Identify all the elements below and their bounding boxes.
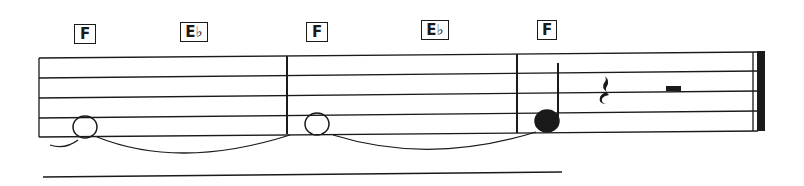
lyric-extender-line bbox=[43, 172, 562, 177]
half-rest-icon bbox=[666, 86, 681, 91]
staff-lines bbox=[39, 52, 758, 137]
whole-note-2 bbox=[305, 113, 329, 135]
quarter-rest-icon bbox=[600, 76, 609, 104]
music-score: F E♭ F E♭ F bbox=[0, 0, 804, 186]
chord-symbol-5: F bbox=[537, 20, 557, 40]
tie-1 bbox=[97, 135, 290, 153]
final-thick-barline bbox=[757, 51, 765, 131]
whole-note-1 bbox=[73, 116, 97, 138]
chord-symbol-3: F bbox=[306, 22, 328, 42]
quarter-note-head bbox=[535, 110, 559, 132]
incoming-tie bbox=[50, 140, 78, 147]
chord-symbol-1: F bbox=[74, 24, 96, 44]
staff-notation bbox=[0, 0, 804, 186]
rests bbox=[600, 76, 681, 104]
chord-symbol-2: E♭ bbox=[180, 22, 208, 42]
chord-symbol-4: E♭ bbox=[421, 20, 449, 40]
